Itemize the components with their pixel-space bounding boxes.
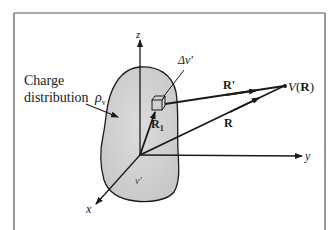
- charge-distribution-figure: Charge distribution ρv z y x Δv' v' R1 R…: [0, 0, 334, 230]
- x-axis-label: x: [86, 203, 91, 215]
- close-paren: ): [310, 79, 314, 94]
- y-axis-label: y: [305, 150, 310, 162]
- delta-v-label: Δv': [178, 54, 193, 66]
- r-symbol: R: [300, 79, 309, 94]
- charge-label-line2: distribution ρv: [24, 91, 106, 107]
- vector-r-head: [230, 98, 259, 112]
- v-symbol: V: [288, 79, 296, 94]
- r-label: R: [224, 117, 233, 129]
- diagram-canvas: [0, 0, 334, 230]
- rho-subscript: v: [102, 98, 106, 107]
- r1-subscript: 1: [160, 124, 164, 133]
- r1-text: R: [151, 117, 160, 131]
- r1-label: R1: [151, 118, 164, 133]
- potential-v-of-r-label: V(R): [288, 80, 314, 93]
- field-point: [283, 84, 287, 88]
- volume-label: v': [135, 176, 142, 186]
- charge-label-line1: Charge: [24, 74, 64, 88]
- distribution-text: distribution: [24, 90, 89, 105]
- rho-symbol: ρ: [95, 90, 102, 105]
- r-prime-label: R': [223, 79, 235, 91]
- z-axis-label: z: [136, 29, 140, 40]
